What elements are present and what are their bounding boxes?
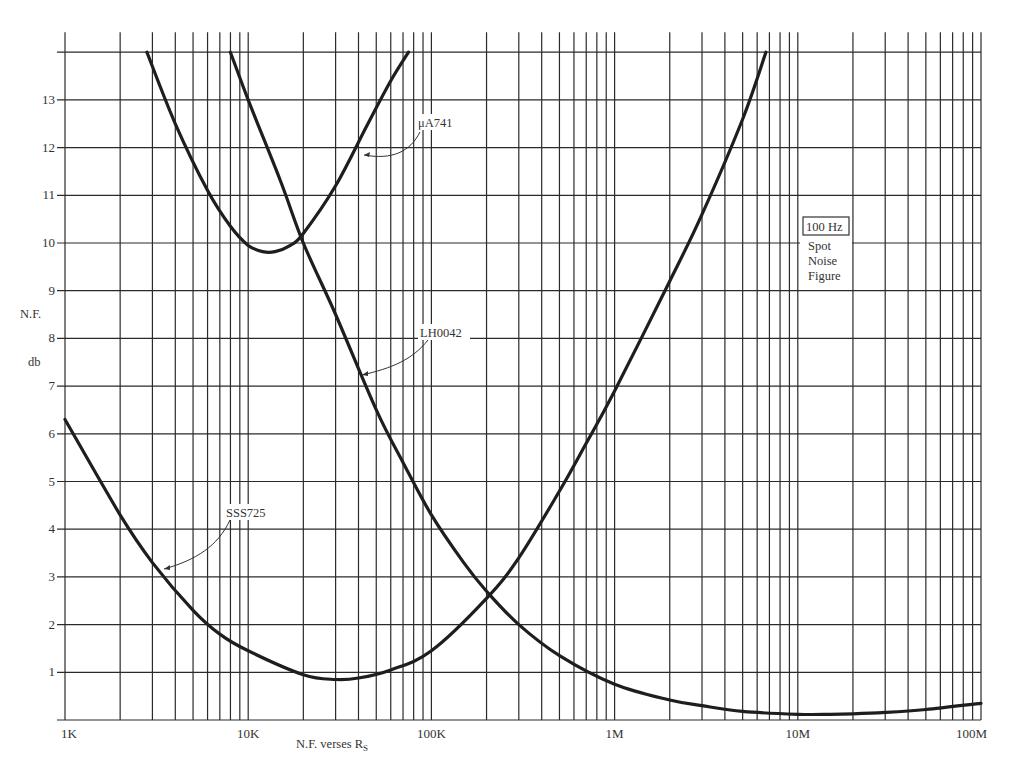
- label-sss725: SSS725: [164, 504, 274, 570]
- x-tick-label: 100M: [956, 726, 988, 741]
- y-tick-label: 1: [49, 664, 56, 679]
- annotation-frequency: 100 Hz: [806, 220, 843, 234]
- y-tick-label: 13: [42, 92, 55, 107]
- leader-arrow-ua741: [364, 132, 420, 156]
- x-tick-label: 10K: [237, 726, 260, 741]
- y-tick-label: 5: [49, 474, 56, 489]
- curve-ua741: [147, 52, 409, 252]
- y-tick-label: 12: [42, 140, 55, 155]
- annotation-line-figure: Figure: [808, 269, 841, 283]
- x-tick-label: 100K: [417, 726, 447, 741]
- y-tick-label: 3: [49, 569, 56, 584]
- y-axis-ticks: 12345678910111213: [42, 92, 56, 679]
- label-ua741: μA741: [364, 114, 462, 157]
- curve-label-ua741: μA741: [418, 116, 452, 130]
- y-tick-label: 8: [49, 330, 56, 345]
- annotation-line-spot: Spot: [808, 239, 831, 253]
- leader-arrow-lh0042: [362, 340, 428, 375]
- y-tick-label: 2: [49, 617, 56, 632]
- y-tick-label: 6: [49, 426, 56, 441]
- y-tick-label: 4: [49, 521, 56, 536]
- label-lh0042: LH0042: [362, 324, 470, 376]
- arrowhead-icon: [364, 152, 370, 157]
- y-tick-label: 11: [42, 187, 55, 202]
- x-axis-title-subscript: S: [363, 743, 368, 753]
- curve-sss725: [65, 52, 766, 680]
- y-tick-label: 10: [42, 235, 55, 250]
- x-axis-title-main: N.F. verses R: [296, 737, 364, 751]
- x-axis-title: N.F. verses RS: [296, 737, 368, 753]
- y-axis-title-nf: N.F.: [20, 307, 41, 321]
- y-axis-title-db: db: [28, 355, 41, 369]
- spot-noise-annotation: 100 Hz Spot Noise Figure: [800, 216, 852, 288]
- x-tick-label: 1K: [61, 726, 78, 741]
- curve-label-lh0042: LH0042: [420, 326, 462, 340]
- y-tick-label: 7: [49, 378, 56, 393]
- curve-label-sss725: SSS725: [226, 506, 266, 520]
- y-tick-label: 9: [49, 283, 56, 298]
- annotation-line-noise: Noise: [808, 254, 838, 268]
- x-tick-label: 10M: [786, 726, 811, 741]
- x-tick-label: 1M: [606, 726, 625, 741]
- x-axis-ticks: 1K10K100K1M10M100M: [61, 726, 987, 741]
- plot-grid: [57, 32, 981, 720]
- noise-figure-chart: 12345678910111213 1K10K100K1M10M100M N.F…: [0, 0, 1017, 768]
